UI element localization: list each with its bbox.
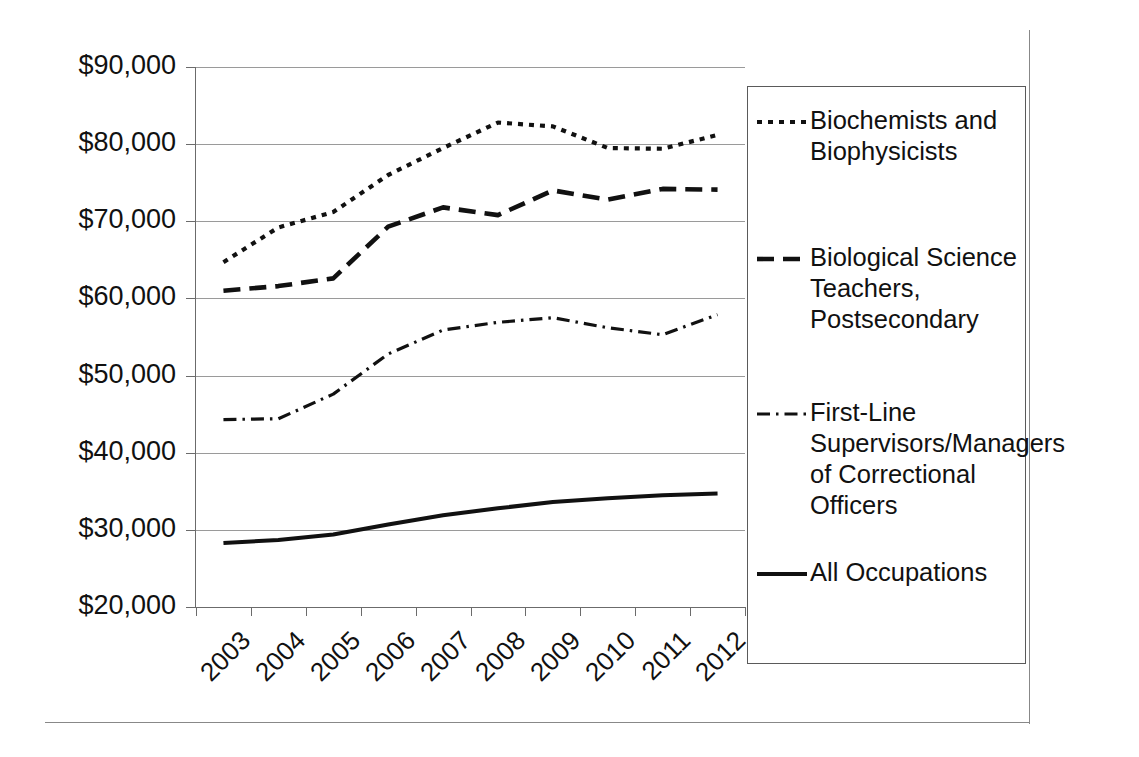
y-tick-label-30000: $30,000: [0, 513, 176, 544]
y-tick-50000: [186, 376, 195, 377]
y-tick-label-80000: $80,000: [0, 127, 176, 158]
x-tick-5: [471, 607, 472, 616]
x-tick-10: [745, 607, 746, 616]
y-tick-label-40000: $40,000: [0, 436, 176, 467]
y-tick-label-90000: $90,000: [0, 50, 176, 81]
y-tick-20000: [186, 607, 195, 608]
plot-area: [196, 67, 745, 607]
x-tick-0: [196, 607, 197, 616]
series-line-2: [223, 315, 717, 420]
legend-swatch-dotted-icon: [756, 109, 808, 135]
y-tick-label-50000: $50,000: [0, 359, 176, 390]
x-tick-7: [580, 607, 581, 616]
y-tick-80000: [186, 144, 195, 145]
x-tick-4: [416, 607, 417, 616]
legend-swatch-solid-icon: [756, 561, 808, 587]
y-tick-label-70000: $70,000: [0, 204, 176, 235]
legend-label-3: All Occupations: [810, 557, 987, 588]
legend-item-0[interactable]: Biochemists and Biophysicists: [756, 105, 1021, 167]
series-lines: [196, 67, 745, 607]
x-tick-6: [525, 607, 526, 616]
x-tick-9: [690, 607, 691, 616]
series-line-3: [223, 494, 717, 543]
salary-trend-line-chart: $90,000$80,000$70,000$60,000$50,000$40,0…: [0, 0, 1139, 757]
y-tick-70000: [186, 221, 195, 222]
legend-label-0: Biochemists and Biophysicists: [810, 105, 997, 167]
y-tick-30000: [186, 530, 195, 531]
chart-legend: Biochemists and BiophysicistsBiological …: [747, 86, 1026, 664]
x-tick-8: [635, 607, 636, 616]
legend-item-3[interactable]: All Occupations: [756, 557, 1021, 588]
legend-label-1: Biological Science Teachers, Postseconda…: [810, 242, 1017, 335]
y-tick-label-20000: $20,000: [0, 590, 176, 621]
y-axis-line: [195, 67, 196, 608]
x-tick-3: [361, 607, 362, 616]
legend-label-2: First-Line Supervisors/Managers of Corre…: [810, 397, 1065, 521]
legend-swatch-dash-dot-icon: [756, 401, 808, 427]
y-tick-60000: [186, 298, 195, 299]
y-tick-label-60000: $60,000: [0, 281, 176, 312]
legend-swatch-dashed-icon: [756, 246, 808, 272]
legend-item-1[interactable]: Biological Science Teachers, Postseconda…: [756, 242, 1021, 335]
x-tick-1: [251, 607, 252, 616]
y-tick-40000: [186, 453, 195, 454]
x-tick-2: [306, 607, 307, 616]
y-tick-90000: [186, 67, 195, 68]
series-line-1: [223, 189, 717, 291]
legend-item-2[interactable]: First-Line Supervisors/Managers of Corre…: [756, 397, 1021, 521]
